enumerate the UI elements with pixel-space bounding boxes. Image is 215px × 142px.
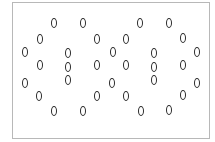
ellipse-shape — [109, 78, 115, 88]
ellipse-shape — [151, 48, 157, 58]
ellipse-shape — [123, 91, 129, 101]
figure-frame — [12, 2, 210, 139]
ellipse-shape — [94, 34, 100, 44]
ellipse-shape — [22, 47, 28, 57]
ellipse-shape — [166, 18, 172, 28]
ellipse-shape — [94, 91, 100, 101]
ellipse-shape — [80, 106, 86, 116]
ellipse-shape — [65, 75, 71, 85]
ellipse-shape — [166, 105, 172, 115]
ellipse-shape — [194, 78, 200, 88]
ellipse-shape — [22, 78, 28, 88]
ellipse-shape — [65, 62, 71, 72]
ellipse-shape — [194, 47, 200, 57]
ellipse-shape — [94, 60, 100, 70]
ellipse-shape — [110, 47, 116, 57]
ellipse-shape — [37, 60, 43, 70]
ellipse-shape — [36, 91, 42, 101]
ellipse-shape — [51, 106, 57, 116]
ellipse-shape — [180, 33, 186, 43]
ellipse-shape — [180, 90, 186, 100]
ellipse-shape — [51, 18, 57, 28]
ellipse-shape — [123, 60, 129, 70]
ellipse-shape — [65, 48, 71, 58]
ellipse-shape — [80, 18, 86, 28]
ellipse-shape — [123, 34, 129, 44]
ellipse-shape — [151, 75, 157, 85]
ellipse-shape — [180, 60, 186, 70]
ellipse-shape — [137, 18, 143, 28]
ellipse-shape — [37, 34, 43, 44]
ellipse-shape — [151, 62, 157, 72]
ellipse-shape — [138, 106, 144, 116]
